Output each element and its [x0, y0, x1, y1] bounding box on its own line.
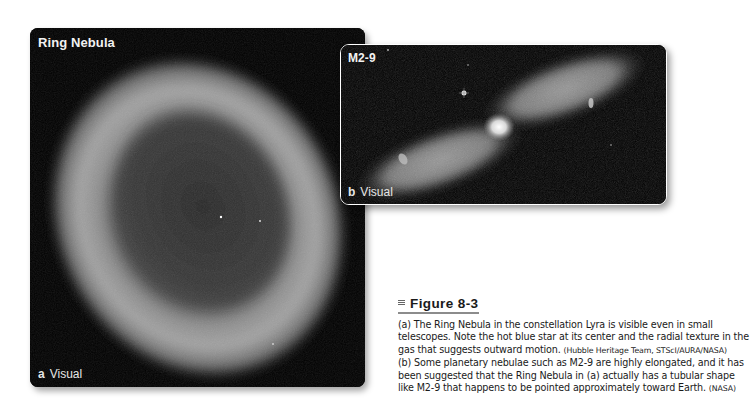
- panel-a-label: aVisual: [38, 367, 82, 381]
- caption-paragraph-b: (b) Some planetary nebulae such as M2-9 …: [398, 357, 751, 395]
- figure-caption: Figure 8-3 (a) The Ring Nebula in the co…: [398, 293, 751, 395]
- figure-heading: Figure 8-3: [398, 296, 479, 314]
- ring-nebula-image: [30, 28, 365, 387]
- figure-number: Figure 8-3: [410, 296, 479, 311]
- panel-a-band: Visual: [50, 367, 82, 381]
- credit-a: (Hubble Heritage Team, STScI/AURA/NASA): [563, 346, 727, 355]
- panel-b-letter: b: [348, 185, 355, 199]
- heading-bullet-icon: [398, 300, 405, 306]
- caption-paragraph-a: (a) The Ring Nebula in the constellation…: [398, 319, 751, 357]
- panel-b-band: Visual: [360, 185, 392, 199]
- central-star: [220, 216, 222, 218]
- credit-b: (NASA): [709, 384, 736, 393]
- m2-9-panel: M2-9 bVisual: [340, 44, 667, 205]
- panel-a-letter: a: [38, 367, 45, 381]
- ring-nebula-panel: Ring Nebula aVisual: [30, 28, 365, 387]
- m2-9-title: M2-9: [348, 51, 376, 65]
- caption-text-b: (b) Some planetary nebulae such as M2-9 …: [398, 357, 744, 393]
- panel-b-label: bVisual: [348, 185, 393, 199]
- central-star: [483, 113, 515, 141]
- ring-nebula-title: Ring Nebula: [38, 35, 115, 50]
- m2-9-image: [341, 45, 666, 204]
